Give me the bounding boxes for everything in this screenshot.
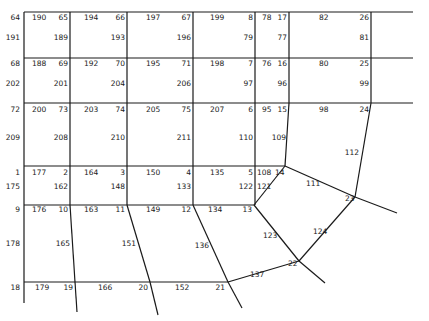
node-label: 166 [98, 283, 113, 292]
node-label: 17 [277, 13, 287, 22]
node-label: 189 [54, 33, 69, 42]
node-label: 150 [146, 168, 161, 177]
node-label: 163 [84, 205, 99, 214]
node-label: 136 [195, 241, 210, 250]
node-label: 98 [319, 105, 329, 114]
node-label: 108 [257, 168, 272, 177]
node-label: 190 [32, 13, 47, 22]
node-label: 195 [146, 59, 161, 68]
node-label: 206 [177, 79, 192, 88]
node-label: 162 [54, 182, 69, 191]
node-label: 65 [58, 13, 68, 22]
node-label: 25 [359, 59, 369, 68]
node-label: 77 [277, 33, 287, 42]
node-label: 18 [10, 283, 20, 292]
node-label: 179 [35, 283, 50, 292]
node-label: 207 [210, 105, 225, 114]
node-label: 177 [32, 168, 47, 177]
node-label: 197 [146, 13, 161, 22]
node-label: 198 [210, 59, 225, 68]
node-label: 26 [359, 13, 369, 22]
node-label: 69 [58, 59, 68, 68]
mesh-edge [75, 282, 77, 312]
node-label: 5 [248, 168, 253, 177]
mesh-edge [299, 261, 325, 283]
node-label: 176 [32, 205, 47, 214]
node-label: 201 [54, 79, 69, 88]
node-label: 6 [248, 105, 253, 114]
mesh-edge [355, 197, 397, 213]
node-label: 4 [186, 168, 191, 177]
node-label: 152 [175, 283, 190, 292]
mesh-edge [228, 282, 242, 308]
node-label: 10 [58, 205, 68, 214]
node-label: 64 [10, 13, 20, 22]
node-label: 67 [181, 13, 191, 22]
node-label: 111 [306, 179, 321, 188]
node-label: 134 [208, 205, 223, 214]
node-label: 191 [6, 33, 21, 42]
node-label: 19 [63, 283, 73, 292]
node-label: 110 [239, 133, 254, 142]
node-label: 15 [277, 105, 287, 114]
node-label: 12 [181, 205, 191, 214]
node-label: 109 [272, 133, 287, 142]
mesh-edges [24, 12, 413, 315]
node-label: 200 [32, 105, 47, 114]
node-label: 208 [54, 133, 69, 142]
node-label: 21 [215, 283, 225, 292]
node-label: 3 [120, 168, 125, 177]
mesh-edge [70, 205, 75, 282]
node-label: 99 [359, 79, 369, 88]
node-label: 81 [359, 33, 369, 42]
node-label: 78 [262, 13, 272, 22]
node-label: 164 [84, 168, 99, 177]
node-label: 149 [146, 205, 161, 214]
node-label: 209 [6, 133, 21, 142]
node-label: 122 [239, 182, 254, 191]
node-label: 193 [111, 33, 126, 42]
node-label: 13 [242, 205, 252, 214]
node-label: 24 [359, 105, 369, 114]
finite-element-mesh-diagram: 6419065194661976719987817822619118919319… [0, 0, 429, 321]
node-label: 73 [58, 105, 68, 114]
node-label: 22 [288, 259, 298, 268]
node-label: 202 [6, 79, 21, 88]
node-label: 1 [15, 168, 20, 177]
node-label: 133 [177, 182, 192, 191]
node-label: 20 [138, 283, 148, 292]
node-label: 7 [248, 59, 253, 68]
node-label: 148 [111, 182, 126, 191]
node-label: 9 [15, 205, 20, 214]
node-label: 66 [115, 13, 125, 22]
node-label: 210 [111, 133, 126, 142]
node-label: 175 [6, 182, 21, 191]
node-label: 68 [10, 59, 20, 68]
node-label: 71 [181, 59, 191, 68]
node-label: 196 [177, 33, 192, 42]
node-label: 74 [115, 105, 125, 114]
node-label: 123 [263, 231, 278, 240]
node-label: 97 [243, 79, 253, 88]
node-label: 75 [181, 105, 191, 114]
node-label: 76 [262, 59, 272, 68]
node-label: 188 [32, 59, 47, 68]
node-label: 2 [63, 168, 68, 177]
node-label: 23 [345, 194, 355, 203]
node-label: 79 [243, 33, 253, 42]
mesh-labels: 6419065194661976719987817822619118919319… [6, 13, 370, 292]
node-label: 204 [111, 79, 126, 88]
node-label: 82 [319, 13, 329, 22]
node-label: 121 [257, 182, 272, 191]
node-label: 80 [319, 59, 329, 68]
node-label: 8 [248, 13, 253, 22]
mesh-edge [150, 282, 158, 315]
node-label: 211 [177, 133, 192, 142]
node-label: 137 [250, 270, 265, 279]
node-label: 178 [6, 239, 21, 248]
node-label: 70 [115, 59, 125, 68]
node-label: 112 [345, 148, 360, 157]
node-label: 96 [277, 79, 287, 88]
node-label: 14 [275, 168, 285, 177]
node-label: 205 [146, 105, 161, 114]
